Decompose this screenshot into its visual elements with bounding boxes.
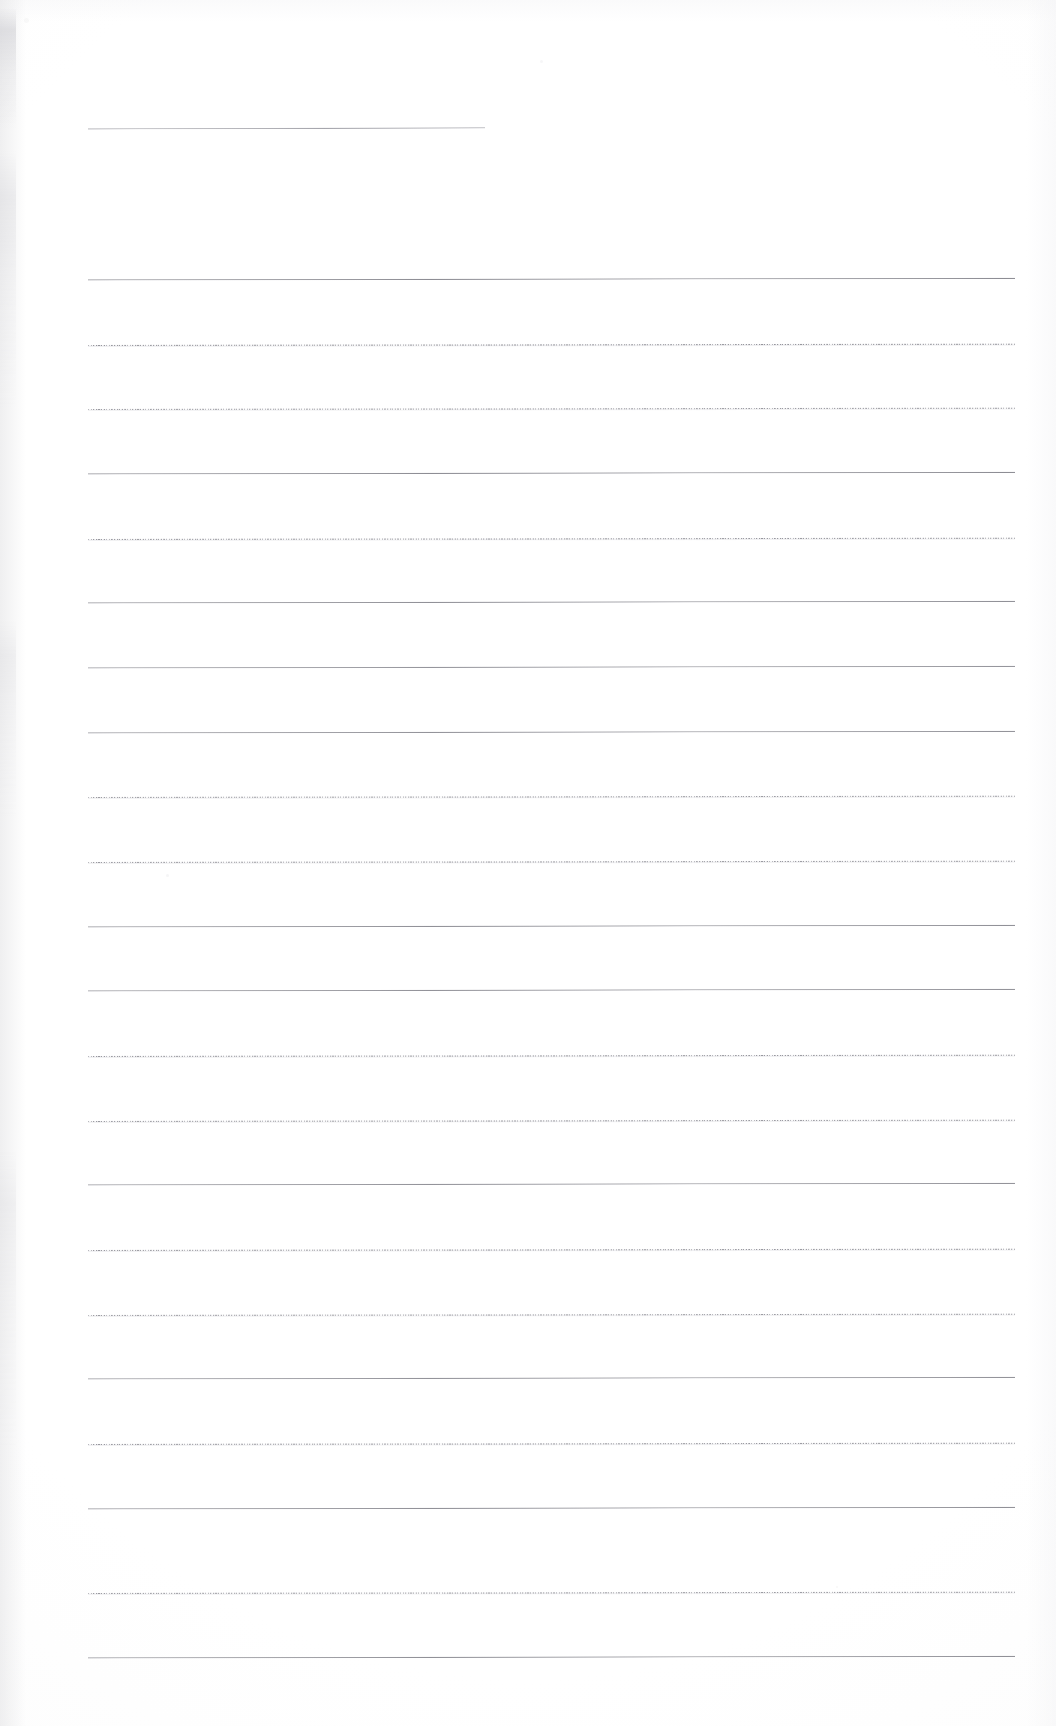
rule-line — [88, 1655, 1015, 1659]
rule-line — [88, 1248, 1015, 1251]
rule-line — [88, 988, 1015, 992]
scan-speck — [166, 874, 169, 877]
left-edge-smudge-low — [0, 620, 16, 820]
rule-line — [88, 471, 1015, 475]
scan-speck — [24, 18, 29, 23]
scan-speck — [836, 1586, 838, 1588]
rule-line — [88, 1376, 1015, 1380]
rule-line — [88, 860, 1015, 863]
rule-line — [88, 1182, 1015, 1186]
scan-speck — [540, 60, 543, 63]
paper-texture-overlay — [0, 0, 1056, 1726]
rule-line — [88, 665, 1015, 669]
rule-line — [88, 1054, 1015, 1057]
rule-line — [88, 1442, 1015, 1445]
left-edge-smudge-lower — [0, 1150, 16, 1450]
rule-line — [88, 1119, 1015, 1122]
left-edge-smudge-mid — [0, 150, 16, 410]
rule-line — [88, 277, 1015, 281]
rule-line — [88, 924, 1015, 928]
rule-line — [88, 407, 1015, 410]
rule-line — [88, 1506, 1015, 1510]
rule-line — [88, 1591, 1015, 1594]
rule-line — [88, 537, 1015, 540]
top-short-rule — [88, 127, 485, 130]
scanned-page — [0, 0, 1056, 1726]
rule-line — [88, 600, 1015, 604]
rule-line — [88, 1313, 1015, 1316]
rule-line — [88, 795, 1015, 798]
left-edge-smudge-top — [0, 8, 16, 128]
rule-line — [88, 730, 1015, 734]
rule-line — [88, 343, 1015, 346]
